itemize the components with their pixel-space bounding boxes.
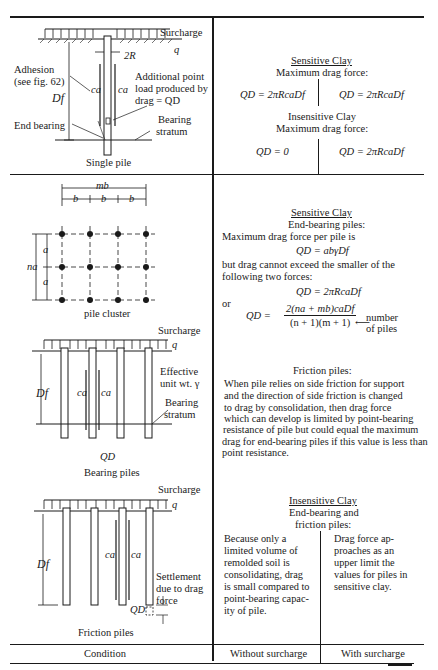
friction-ca-left: ca xyxy=(105,549,115,561)
insensitive-sub-heading: End-bearing and xyxy=(289,507,359,519)
insensitive-max-drag-heading: Maximum drag force: xyxy=(276,123,368,135)
friction-surcharge-label: Surcharge xyxy=(158,484,200,496)
max-drag-heading: Maximum drag force: xyxy=(276,67,368,79)
friction-df-label: Df xyxy=(37,558,49,570)
insensitive-with-eq: QD = 2πRcaDf xyxy=(339,146,404,158)
bearing-df-label: Df xyxy=(36,387,48,399)
bearing-piles-caption: Bearing piles xyxy=(84,467,140,479)
bearing-ca-left: ca xyxy=(77,387,87,399)
friction-line: resistance of pile but could equal the m… xyxy=(223,424,418,436)
adhesion-ref-label: (see fig. 62) xyxy=(14,76,64,88)
condition-column-header: Condition xyxy=(84,648,126,660)
a-label-1: a xyxy=(43,244,48,256)
bearing-ca-right: ca xyxy=(101,387,111,399)
or-text: or xyxy=(222,298,231,310)
friction-qd-label: QD xyxy=(130,604,145,616)
friction-line: When pile relies on side friction for su… xyxy=(224,378,404,390)
bearing-stratum-label-2: stratum xyxy=(156,126,188,138)
sensitive-clay-heading-2: Sensitive Clay xyxy=(291,207,352,219)
mb-label: mb xyxy=(96,180,109,192)
insensitive-cell-divider xyxy=(320,531,321,664)
bearing-stratum-label: Bearing xyxy=(165,397,198,409)
without-line: ity of pile. xyxy=(224,605,267,617)
with-line: upper limit the xyxy=(334,557,395,569)
insensitive-sub-heading-2: friction piles: xyxy=(295,519,351,531)
friction-line: drag for end-bearing piles if this value… xyxy=(222,436,428,448)
with-line: values for piles in xyxy=(334,569,408,581)
friction-line: which can develop is limited by point-be… xyxy=(224,413,413,425)
sensitive-with-eq: QD = 2πRcaDf xyxy=(339,89,404,101)
without-line: point-bearing capac- xyxy=(224,593,309,605)
friction-ca-right: ca xyxy=(131,549,141,561)
single-pile-diagram xyxy=(0,16,212,176)
without-line: Because only a xyxy=(224,533,286,545)
b-label-2: b xyxy=(101,193,106,205)
eq-2pirca: QD = 2πRcaDf xyxy=(296,286,361,298)
with-line: Drag force ap- xyxy=(334,533,394,545)
without-line: limited volume of xyxy=(224,545,298,557)
eq3-denominator: (n + 1)(m + 1) xyxy=(290,317,350,329)
bottom-rule-stub xyxy=(388,664,412,666)
table-bottom-rule xyxy=(10,663,414,664)
insensitive-clay-heading-2: Insensitive Clay xyxy=(289,495,357,507)
b-label-3: b xyxy=(129,193,134,205)
but-drag-text: but drag cannot exceed the smaller of th… xyxy=(222,259,395,271)
eq3-lhs: QD = xyxy=(246,310,271,322)
with-line: proaches as an xyxy=(334,545,394,557)
friction-line: point resistance. xyxy=(222,447,289,459)
insensitive-divider xyxy=(318,139,319,175)
pile-cluster-caption: pile cluster xyxy=(84,308,130,320)
but-drag-text-2: following two forces: xyxy=(222,271,312,283)
friction-piles-caption: Friction piles xyxy=(78,627,134,639)
sensitive-divider xyxy=(318,79,319,106)
ca-right-label: ca xyxy=(118,84,128,96)
eq3-numerator: 2(na + mb)caDf xyxy=(286,303,354,315)
b-label-1: b xyxy=(73,193,78,205)
two-r-label: 2R xyxy=(124,50,136,62)
bearing-q-label: q xyxy=(172,339,177,351)
without-line: remolded soil is xyxy=(224,557,290,569)
surcharge-label: Surcharge xyxy=(160,27,202,39)
settlement-label-2: due to drag xyxy=(156,583,203,595)
end-bearing-label: End bearing xyxy=(14,120,65,132)
with-surcharge-column-header: With surcharge xyxy=(341,648,405,660)
document-page: Surcharge q 2R Adhesion (see fig. 62) ca… xyxy=(0,0,438,670)
effective-unit-wt-label-2: unit wt. γ xyxy=(160,378,199,390)
insensitive-clay-heading: Insensitive Clay xyxy=(288,111,356,123)
bearing-surcharge-label: Surcharge xyxy=(158,325,200,337)
bearing-stratum-label: Bearing xyxy=(158,114,191,126)
sensitive-clay-heading: Sensitive Clay xyxy=(291,55,352,67)
single-pile-caption: Single pile xyxy=(86,157,131,169)
bearing-qd-label: QD xyxy=(100,451,115,463)
na-label: na xyxy=(27,261,38,273)
adhesion-label: Adhesion xyxy=(14,64,54,76)
friction-piles-heading: Friction piles: xyxy=(293,365,352,377)
without-line: is small compared to xyxy=(224,581,310,593)
friction-line: and the direction of side friction is ch… xyxy=(224,390,403,402)
insensitive-without-eq: QD = 0 xyxy=(256,146,289,158)
friction-piles-diagram xyxy=(0,490,212,650)
df-label: Df xyxy=(52,92,64,104)
settlement-label-3: force xyxy=(156,595,178,607)
fraction-bar xyxy=(284,315,356,316)
point-load-label-3: drag = QD xyxy=(135,95,180,107)
sensitive-without-eq: QD = 2πRcaDf xyxy=(240,89,305,101)
with-line: sensitive clay. xyxy=(334,581,392,593)
point-load-label: Additional point xyxy=(135,71,204,83)
settlement-label: Settlement xyxy=(156,571,201,583)
a-label-2: a xyxy=(43,276,48,288)
friction-line: to drag by consolidation, then drag forc… xyxy=(224,402,391,414)
q-label: q xyxy=(174,44,179,56)
friction-q-label: q xyxy=(172,499,177,511)
bearing-stratum-label-2: stratum xyxy=(164,409,196,421)
end-bearing-heading: End-bearing piles: xyxy=(288,219,365,231)
number-of-piles-label-2: of piles xyxy=(366,323,397,335)
point-load-label-2: load produced by xyxy=(135,83,208,95)
without-surcharge-column-header: Without surcharge xyxy=(230,648,307,660)
table-column-divider xyxy=(212,16,214,661)
without-line: consolidating, drag xyxy=(224,569,303,581)
max-drag-per-pile-text: Maximum drag force per pile is xyxy=(222,231,355,243)
effective-unit-wt-label: Effective xyxy=(160,366,198,378)
eq-abgamma: QD = abγDf xyxy=(296,245,349,257)
ca-left-label: ca xyxy=(91,84,101,96)
